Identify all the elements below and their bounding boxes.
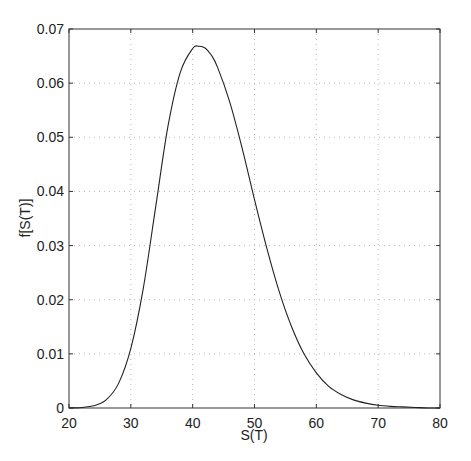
x-tick-label: 70 [370, 415, 386, 431]
y-tick-label: 0.06 [37, 75, 64, 91]
plot-area-frame [69, 29, 440, 408]
x-tick-label: 80 [432, 415, 448, 431]
y-tick-label: 0.07 [37, 21, 64, 37]
x-tick-label: 40 [185, 415, 201, 431]
x-tick-label: 60 [309, 415, 325, 431]
y-tick-label: 0.02 [37, 292, 64, 308]
grid-lines [69, 29, 440, 408]
x-axis-label: S(T) [240, 427, 267, 443]
y-axis-label: f[S(T)] [17, 199, 33, 238]
axis-ticks: 2030405060708000.010.020.030.040.050.060… [37, 21, 448, 431]
y-tick-label: 0 [56, 400, 64, 416]
x-tick-label: 20 [61, 415, 77, 431]
y-tick-label: 0.05 [37, 129, 64, 145]
y-tick-label: 0.01 [37, 346, 64, 362]
y-tick-label: 0.04 [37, 183, 64, 199]
y-tick-label: 0.03 [37, 238, 64, 254]
pdf-line-chart: 2030405060708000.010.020.030.040.050.060… [0, 0, 471, 461]
x-tick-label: 30 [123, 415, 139, 431]
